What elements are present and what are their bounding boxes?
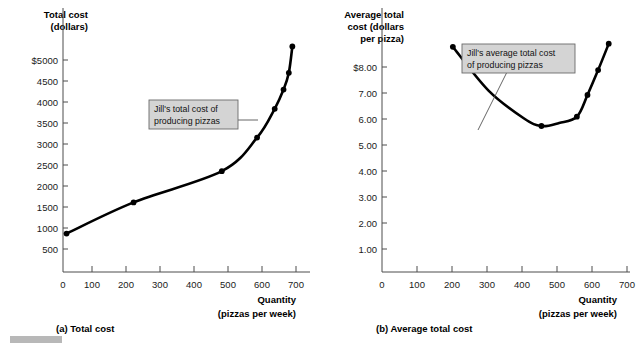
x-tick-label: 200 — [444, 279, 460, 290]
y-tick-label: 1000 — [37, 223, 58, 234]
y-tick-label: 500 — [42, 244, 58, 255]
x-tick-label: 200 — [118, 279, 134, 290]
panel-caption-a: (a) Total cost — [56, 323, 115, 334]
x-ticks — [92, 266, 296, 272]
x-axis-title-line-2: (pizzas per week) — [539, 308, 617, 319]
x-tick-label: 100 — [409, 279, 425, 290]
callout-leader-line — [478, 70, 508, 130]
x-tick-label: 300 — [152, 279, 168, 290]
x-tick-label: 600 — [584, 279, 600, 290]
x-axis-title-line-2: (pizzas per week) — [218, 308, 296, 319]
bottom-rule-decoration — [10, 336, 62, 343]
y-tick-label: $8.00 — [353, 62, 377, 73]
x-tick-label: 500 — [549, 279, 565, 290]
panel-total-cost: Total cost (dollars) 500 1000 1500 2000 … — [32, 8, 310, 334]
y-axis-title-line-2: (dollars) — [51, 21, 88, 32]
callout-line-2: of producing pizzas — [467, 60, 543, 70]
data-point-marker — [64, 231, 70, 237]
y-tick-label: 3000 — [37, 139, 58, 150]
y-axis-title-line-1: Average total — [344, 9, 404, 20]
panel-average-total-cost: Average total cost (dollars per pizza) 1… — [344, 8, 635, 334]
data-point-marker — [450, 44, 456, 50]
x-axis-title-line-1: Quantity — [257, 294, 296, 305]
x-tick-label: 700 — [288, 279, 304, 290]
callout-line-1: Jill's average total cost — [467, 48, 556, 58]
callout-average-total-cost: Jill's average total cost of producing p… — [462, 44, 575, 73]
x-tick-label: 0 — [60, 279, 65, 290]
x-tick-label: 0 — [379, 279, 384, 290]
y-tick-label: 2500 — [37, 160, 58, 171]
x-ticks — [417, 266, 627, 272]
data-point-marker — [272, 106, 278, 112]
y-tick-label: 3.00 — [359, 192, 378, 203]
data-point-marker — [595, 67, 601, 73]
y-tick-label: 5.00 — [359, 140, 378, 151]
x-tick-label: 500 — [220, 279, 236, 290]
y-ticks — [63, 60, 68, 249]
y-ticks — [382, 67, 387, 249]
callout-line-1: Jill's total cost of — [154, 104, 218, 114]
y-tick-label: 3500 — [37, 118, 58, 129]
x-tick-label: 600 — [254, 279, 270, 290]
x-tick-label: 400 — [514, 279, 530, 290]
total-cost-curve — [64, 44, 296, 237]
y-tick-label: 2000 — [37, 181, 58, 192]
panel-caption-b: (b) Average total cost — [376, 323, 473, 334]
x-axis-title-line-1: Quantity — [578, 294, 617, 305]
y-tick-label: 2.00 — [359, 218, 378, 229]
data-point-marker — [289, 44, 295, 50]
cost-curves-figure: Total cost (dollars) 500 1000 1500 2000 … — [0, 0, 642, 344]
y-tick-label: 4500 — [37, 76, 58, 87]
data-point-marker — [281, 87, 287, 93]
y-tick-label: 7.00 — [359, 88, 378, 99]
data-point-marker — [219, 168, 225, 174]
data-point-marker — [539, 123, 545, 129]
y-tick-label: 1.00 — [359, 244, 378, 255]
data-point-marker — [254, 135, 260, 141]
data-point-marker — [606, 41, 612, 47]
y-axis-title-line-1: Total cost — [44, 9, 89, 20]
callout-total-cost: Jill's total cost of producing pizzas — [149, 100, 238, 129]
x-tick-label: 100 — [84, 279, 100, 290]
y-axis-title-line-2: cost (dollars — [348, 21, 405, 32]
x-tick-label: 300 — [479, 279, 495, 290]
y-tick-label: 1500 — [37, 202, 58, 213]
data-point-marker — [574, 114, 580, 120]
y-tick-label: 4.00 — [359, 166, 378, 177]
y-tick-label: $5000 — [32, 55, 58, 66]
x-tick-label: 400 — [186, 279, 202, 290]
y-tick-label: 4000 — [37, 97, 58, 108]
data-point-marker — [585, 92, 591, 98]
data-point-marker — [131, 200, 137, 206]
data-point-marker — [286, 70, 292, 76]
x-tick-label: 700 — [619, 279, 635, 290]
callout-line-2: producing pizzas — [154, 116, 221, 126]
y-tick-label: 6.00 — [359, 114, 378, 125]
